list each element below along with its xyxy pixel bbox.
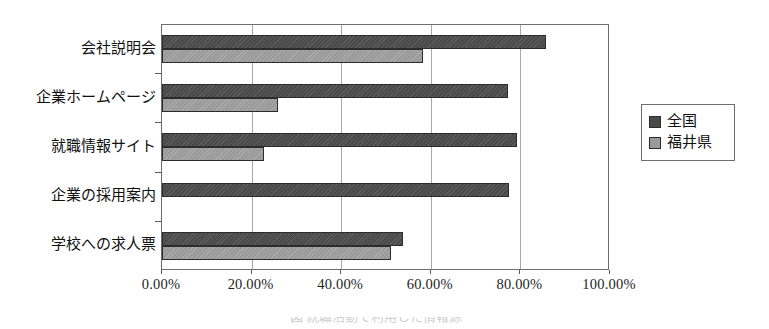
bar-group [162,74,608,123]
figure-caption-cropped: 図 就職活動で利用した情報源 [0,317,769,329]
bar-zenkoku [162,35,546,49]
bar-zenkoku [162,84,508,98]
bar-zenkoku [162,232,403,246]
x-tick [161,270,162,274]
bar-group [162,222,608,271]
x-tick [609,270,610,274]
bar-zenkoku [162,183,509,197]
bar-fukui [162,98,278,112]
y-tick [155,73,161,74]
x-tick [430,270,431,274]
figure-caption-text: 図 就職活動で利用した情報源 [290,317,462,325]
y-category-label: 企業ホームページ [0,90,156,105]
x-tick-label: 100.00% [549,276,669,293]
bar-fukui [162,147,264,161]
bar-chart-figure: 0.00%20.00%40.00%60.00%80.00%100.00% 会社説… [0,0,769,329]
plot-area [161,24,609,270]
x-tick [251,270,252,274]
legend-item-1[interactable]: 福井県 [649,132,727,153]
y-category-label: 就職情報サイト [0,139,156,154]
y-category-label: 企業の採用案内 [0,188,156,203]
legend-item-label: 全国 [667,114,697,129]
bar-zenkoku [162,133,517,147]
y-tick [155,221,161,222]
bar-fukui [162,49,423,63]
x-tick [519,270,520,274]
legend-item-0[interactable]: 全国 [649,111,727,132]
y-category-label: 学校への求人票 [0,237,156,252]
bar-fukui [162,246,391,260]
light-gray-swatch-icon [649,137,661,149]
dark-gray-swatch-icon [649,116,661,128]
legend-item-label: 福井県 [667,135,712,150]
bar-group [162,173,608,222]
y-tick [155,122,161,123]
x-tick [340,270,341,274]
y-tick [155,172,161,173]
chart-legend: 全国 福井県 [641,104,735,161]
bar-group [162,123,608,172]
bar-group [162,25,608,74]
y-category-label: 会社説明会 [0,41,156,56]
